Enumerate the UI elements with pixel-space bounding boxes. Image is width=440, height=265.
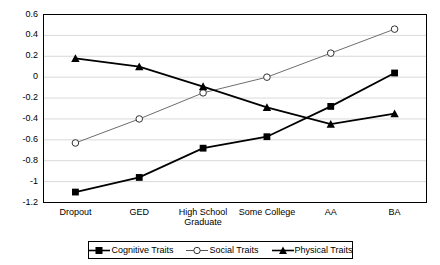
legend-label: Cognitive Traits xyxy=(111,246,173,255)
series-line xyxy=(75,73,394,192)
data-point-square xyxy=(327,103,334,110)
legend-label: Physical Traits xyxy=(295,246,353,255)
filled-square-icon xyxy=(88,245,110,256)
series-line xyxy=(75,58,394,124)
y-axis-tick-label: 0 xyxy=(0,72,38,81)
y-axis-tick-label: -1.2 xyxy=(0,198,38,207)
y-axis-tick-label: 0.2 xyxy=(0,51,38,60)
data-point-circle xyxy=(136,116,143,123)
y-axis-tick-label: 0.4 xyxy=(0,30,38,39)
line-chart: 0.60.40.20-0.2-0.4-0.6-0.8-1-1.2 Dropout… xyxy=(0,0,440,265)
x-axis-tick-label: BA xyxy=(358,207,432,217)
data-point-square xyxy=(72,189,79,196)
legend-label: Social Traits xyxy=(209,246,258,255)
legend-item-social-traits: Social Traits xyxy=(186,245,258,256)
data-point-square xyxy=(391,70,398,77)
data-point-square xyxy=(264,133,271,140)
data-point-circle xyxy=(264,74,271,81)
data-point-circle xyxy=(327,50,334,57)
data-point-circle xyxy=(391,26,398,33)
gridlines xyxy=(44,35,427,202)
data-point-circle xyxy=(200,90,207,97)
series-layer xyxy=(71,26,399,196)
chart-legend: Cognitive Traits Social Traits Physical … xyxy=(88,241,353,259)
data-point-square xyxy=(136,174,143,181)
plot-frame xyxy=(44,15,427,203)
y-axis-tick-label: -1 xyxy=(0,177,38,186)
legend-item-physical-traits: Physical Traits xyxy=(272,245,353,256)
series-line xyxy=(75,29,394,143)
data-point-circle xyxy=(72,140,79,147)
data-point-square xyxy=(200,145,207,152)
y-axis-tick-label: -0.2 xyxy=(0,93,38,102)
y-axis-tick-label: -0.8 xyxy=(0,156,38,165)
open-circle-icon xyxy=(186,245,208,256)
filled-triangle-icon xyxy=(272,245,294,256)
legend-item-cognitive-traits: Cognitive Traits xyxy=(88,245,173,256)
y-axis-tick-label: 0.6 xyxy=(0,10,38,19)
y-axis-tick-label: -0.4 xyxy=(0,114,38,123)
y-axis-tick-label: -0.6 xyxy=(0,135,38,144)
